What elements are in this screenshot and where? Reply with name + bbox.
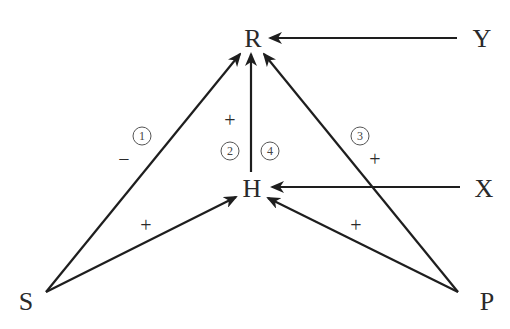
- sign-s-h: +: [140, 214, 151, 236]
- edge-p-to-r: [264, 54, 458, 292]
- svg-text:1: 1: [139, 129, 145, 143]
- sign-s-r: −: [118, 148, 129, 170]
- node-s: S: [19, 287, 33, 316]
- sign-h-r: +: [224, 109, 235, 131]
- edge-p-to-h: [268, 198, 458, 292]
- circled-number-4: 4: [261, 142, 279, 160]
- svg-text:3: 3: [357, 129, 363, 143]
- node-r: R: [244, 24, 262, 53]
- sign-p-h: +: [350, 214, 361, 236]
- circled-number-1: 1: [133, 127, 151, 145]
- node-y: Y: [473, 24, 492, 53]
- svg-text:4: 4: [267, 144, 273, 158]
- circled-number-2: 2: [221, 142, 239, 160]
- node-h: H: [243, 174, 262, 203]
- edge-s-to-r: [46, 54, 240, 292]
- edge-s-to-h: [46, 197, 236, 292]
- circled-number-3: 3: [351, 127, 369, 145]
- node-p: P: [480, 287, 494, 316]
- causal-diagram: R Y H X S P − + + + + 1 2 4 3: [0, 0, 510, 329]
- svg-text:2: 2: [227, 144, 233, 158]
- node-x: X: [475, 174, 494, 203]
- sign-p-r: +: [369, 148, 380, 170]
